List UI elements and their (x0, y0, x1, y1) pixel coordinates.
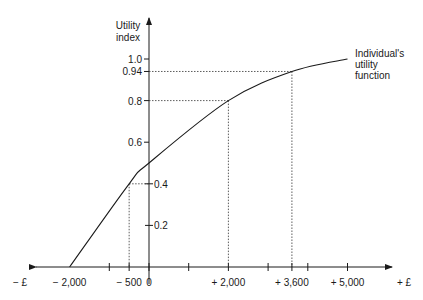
axis-labels: − 2,000− 5000+ 2,000+ 3,600+ 5,000− £+ £… (13, 20, 412, 288)
y-tick-label: 0.94 (123, 66, 143, 77)
x-tick-label: − 500 (116, 277, 142, 288)
x-tick-label: + 5,000 (331, 277, 365, 288)
y-tick-label: 0.6 (128, 137, 142, 148)
curve-annotation: Individual's (355, 48, 404, 59)
y-tick-label: 0.4 (154, 179, 168, 190)
y-axis-label: Utility (116, 20, 140, 31)
y-axis-label: index (116, 32, 140, 43)
utility-chart: − 2,000− 5000+ 2,000+ 3,600+ 5,000− £+ £… (0, 0, 423, 300)
curve-annotation: utility (355, 59, 378, 70)
x-negative-label: − £ (13, 277, 28, 288)
y-tick-label: 0.2 (154, 220, 168, 231)
x-tick-label: + 3,600 (275, 277, 309, 288)
y-tick-label: 1.0 (128, 54, 142, 65)
reference-lines (129, 71, 292, 267)
x-tick-label: + 2,000 (212, 277, 246, 288)
y-tick-label: 0.8 (128, 96, 142, 107)
axes (36, 18, 392, 284)
curve-annotation: function (355, 70, 390, 81)
utility-curve (70, 59, 348, 267)
x-tick-label: − 2,000 (53, 277, 87, 288)
x-tick-label: 0 (146, 277, 152, 288)
x-positive-label: + £ (397, 277, 412, 288)
